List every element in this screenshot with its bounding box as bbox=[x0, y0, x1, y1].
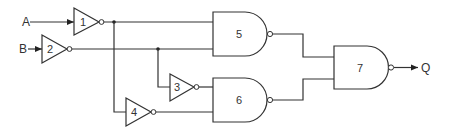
gate-1-label: 1 bbox=[80, 16, 86, 28]
gate-5-label: 5 bbox=[236, 28, 242, 40]
arrow-b-icon bbox=[35, 46, 42, 52]
gate-7-nand: 7 bbox=[334, 46, 394, 89]
input-label-a: A bbox=[22, 15, 30, 29]
wire-g1-to-g4 bbox=[114, 22, 126, 112]
logic-circuit-diagram: A B 1 2 3 4 5 bbox=[0, 0, 452, 131]
wire-g6-to-g7 bbox=[273, 79, 334, 100]
wire-g2-to-g3 bbox=[158, 49, 170, 87]
input-label-b: B bbox=[19, 42, 27, 56]
arrow-q-icon bbox=[411, 65, 418, 71]
gate-4-not: 4 bbox=[126, 98, 156, 126]
gate-1-not: 1 bbox=[74, 8, 104, 35]
gate-6-label: 6 bbox=[236, 94, 242, 106]
output-label-q: Q bbox=[421, 61, 430, 75]
gate-2-not: 2 bbox=[42, 35, 72, 63]
gate-5-nand: 5 bbox=[213, 12, 273, 56]
gate-4-label: 4 bbox=[131, 106, 137, 118]
gate-3-not: 3 bbox=[170, 74, 199, 101]
gate-6-nand: 6 bbox=[213, 78, 273, 122]
gate-7-label: 7 bbox=[357, 62, 363, 74]
gate-3-label: 3 bbox=[174, 81, 180, 93]
gate-2-label: 2 bbox=[47, 43, 53, 55]
wire-g5-to-g7 bbox=[273, 34, 334, 57]
arrow-a-icon bbox=[67, 19, 74, 25]
